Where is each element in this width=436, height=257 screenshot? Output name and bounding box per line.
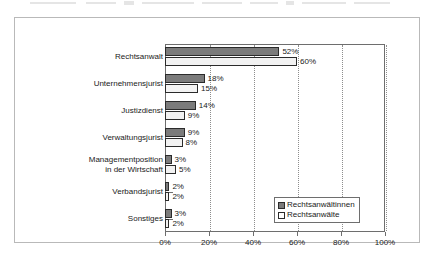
bar-male <box>165 138 183 147</box>
x-tick-label: 20% <box>201 238 217 247</box>
x-tick-label: 80% <box>333 238 349 247</box>
category-label: Unternehmensjurist <box>23 79 163 89</box>
x-tick <box>297 232 298 236</box>
bar-row: 18%15% <box>165 74 385 94</box>
bar-value-label: 9% <box>188 111 200 120</box>
bar-value-label: 15% <box>201 84 217 93</box>
category-axis-labels: RechtsanwaltUnternehmensjuristJustizdien… <box>21 44 163 232</box>
bar-male <box>165 165 176 174</box>
legend-label-female: Rechtsanwältinnen <box>287 200 355 210</box>
x-tick-label: 40% <box>245 238 261 247</box>
bar-value-label: 3% <box>175 209 187 218</box>
x-tick <box>253 232 254 236</box>
bar-female <box>165 74 205 83</box>
figure-frame: RechtsanwaltUnternehmensjuristJustizdien… <box>14 17 420 243</box>
bar-female <box>165 182 169 191</box>
bar-value-label: 2% <box>172 182 184 191</box>
bar-female <box>165 47 279 56</box>
bar-male <box>165 84 198 93</box>
x-tick <box>385 232 386 236</box>
legend-item-female: Rechtsanwältinnen <box>278 200 355 210</box>
x-tick-label: 60% <box>289 238 305 247</box>
cut-off-text-remnant <box>0 0 436 7</box>
bar-row: 14%9% <box>165 101 385 121</box>
bar-female <box>165 155 172 164</box>
bar-row: 3%5% <box>165 155 385 175</box>
bar-value-label: 52% <box>282 47 298 56</box>
bar-value-label: 9% <box>188 128 200 137</box>
bar-value-label: 8% <box>186 138 198 147</box>
gridline-100pct <box>386 45 387 231</box>
chart-legend: Rechtsanwältinnen Rechtsanwälte <box>274 197 360 223</box>
bar-row: 52%60% <box>165 47 385 67</box>
x-tick <box>209 232 210 236</box>
bar-male <box>165 219 169 228</box>
bar-value-label: 2% <box>172 192 184 201</box>
category-label: Rechtsanwalt <box>23 52 163 62</box>
legend-item-male: Rechtsanwälte <box>278 210 355 220</box>
category-label: Managementposition in der Wirtschaft <box>23 155 163 175</box>
x-tick <box>165 232 166 236</box>
category-label: Verwaltungsjurist <box>23 133 163 143</box>
bar-value-label: 14% <box>199 101 215 110</box>
bar-male <box>165 192 169 201</box>
bar-male <box>165 111 185 120</box>
category-label: Justizdienst <box>23 106 163 116</box>
bar-female <box>165 209 172 218</box>
x-tick-label: 100% <box>375 238 395 247</box>
category-label: Sonstiges <box>23 214 163 224</box>
bar-value-label: 5% <box>179 165 191 174</box>
bar-value-label: 3% <box>175 155 187 164</box>
bar-row: 9%8% <box>165 128 385 148</box>
legend-swatch-male <box>278 212 285 219</box>
bar-value-label: 18% <box>208 74 224 83</box>
legend-swatch-female <box>278 202 285 209</box>
x-tick <box>341 232 342 236</box>
bar-male <box>165 57 297 66</box>
bar-value-label: 60% <box>300 57 316 66</box>
x-tick-label: 0% <box>159 238 171 247</box>
bar-value-label: 2% <box>172 219 184 228</box>
bar-female <box>165 128 185 137</box>
bar-female <box>165 101 196 110</box>
legend-label-male: Rechtsanwälte <box>287 210 339 220</box>
category-label: Verbandsjurist <box>23 187 163 197</box>
